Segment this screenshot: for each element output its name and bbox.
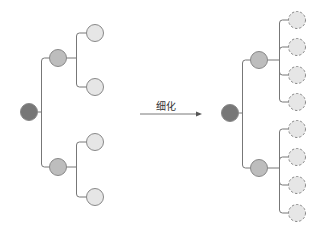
level1-node [50,50,67,67]
level1-node [251,160,268,177]
leaf-node [289,94,306,111]
leaf-node [289,121,306,138]
leaf-node [289,177,306,194]
leaf-node [87,25,104,42]
leaf-node [289,12,306,29]
level1-node [50,159,67,176]
leaf-node [289,39,306,56]
leaf-node [289,205,306,222]
root-node [222,105,239,122]
leaf-node [289,67,306,84]
root-node [21,104,38,121]
leaf-node [87,79,104,96]
leaf-node [87,189,104,206]
leaf-node [87,134,104,151]
refinement-diagram: 细化 [0,0,321,233]
leaf-node [289,149,306,166]
left-tree [21,25,104,206]
tree-graphics [0,0,321,233]
right-tree [222,12,306,222]
level1-node [251,52,268,69]
arrow-label: 细化 [156,98,176,113]
